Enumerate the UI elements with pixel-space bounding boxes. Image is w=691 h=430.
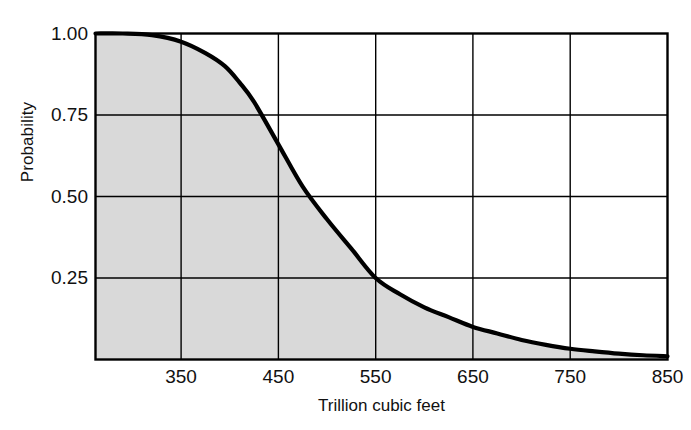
x-axis-tick-labels: 350450550650750850 [0, 366, 691, 396]
y-tick-label-1.00: 1.00 [30, 24, 88, 43]
y-tick-label-0.50: 0.50 [30, 187, 88, 206]
x-tick-label-650: 650 [433, 366, 513, 388]
y-tick-label-0.25: 0.25 [30, 268, 88, 287]
x-tick-label-350: 350 [141, 366, 221, 388]
x-axis-title: Trillion cubic feet [95, 396, 668, 416]
y-axis-title: Probability [18, 62, 38, 222]
x-tick-label-850: 850 [628, 366, 691, 388]
y-tick-label-0.75: 0.75 [30, 105, 88, 124]
x-tick-label-450: 450 [238, 366, 318, 388]
x-tick-label-750: 750 [530, 366, 610, 388]
x-tick-label-550: 550 [336, 366, 416, 388]
chart-figure: 0.250.500.751.00 350450550650750850 Prob… [0, 0, 691, 430]
